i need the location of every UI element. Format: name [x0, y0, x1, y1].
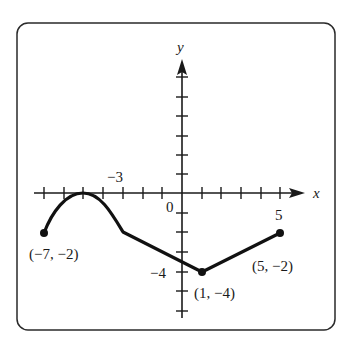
- frame-border: [17, 23, 335, 330]
- origin-label: 0: [166, 199, 174, 215]
- graph-figure: y x −3 0 5 −4 (−7, −2) (1, −4) (5, −2): [0, 0, 341, 341]
- y-tick-label-neg4: −4: [150, 265, 166, 281]
- endpoint-end-dot: [276, 229, 284, 237]
- minimum-point-dot: [198, 268, 206, 276]
- point-label-end: (5, −2): [252, 258, 293, 275]
- point-label-minimum: (1, −4): [194, 285, 235, 302]
- x-axis-label: x: [312, 185, 320, 201]
- endpoint-start-dot: [40, 229, 48, 237]
- x-tick-label-neg3: −3: [107, 169, 123, 185]
- y-axis-label: y: [175, 39, 184, 55]
- point-label-start: (−7, −2): [29, 246, 78, 263]
- x-tick-label-5: 5: [275, 207, 283, 223]
